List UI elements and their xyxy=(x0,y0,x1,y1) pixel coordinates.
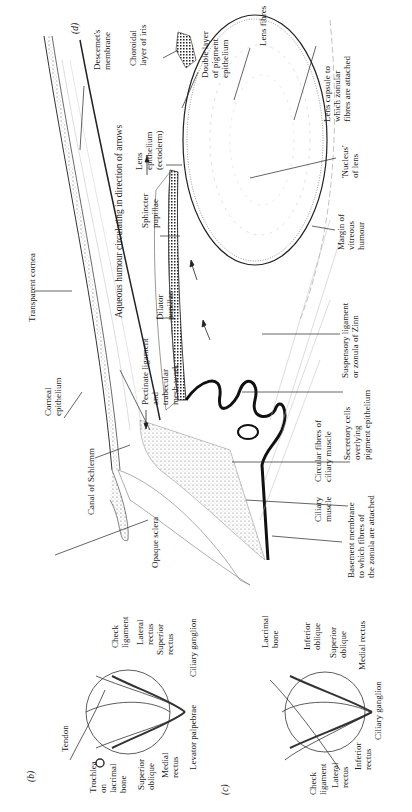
label-superior-oblique-c: Superior oblique xyxy=(328,627,348,658)
label-aqueous-humour: Aqueous humour circulating in direction … xyxy=(114,125,125,318)
label-pectinate-ligament: Pectinate ligament and trabecular mesh-w… xyxy=(140,338,180,405)
label-nucleus-of-lens: 'Nucleus' of lens xyxy=(340,145,360,178)
panel-c-label: (c) xyxy=(220,784,231,795)
label-ciliary-muscle: Ciliary muscle xyxy=(313,497,333,523)
choroidal-fragment xyxy=(176,32,196,68)
label-double-layer-pigment: Double layer of pigment epithelium xyxy=(200,31,230,78)
label-lens-fibres: Lens fibres xyxy=(258,6,268,46)
label-ciliary-ganglion-b: Ciliary ganglion xyxy=(188,618,198,677)
label-inferior-oblique: Inferior oblique xyxy=(302,623,322,650)
label-tendon: Tendon xyxy=(60,725,70,752)
label-trochlea: Trochlea on lacrimal bone xyxy=(88,761,128,793)
label-circular-fibres: Circular fibres of ciliary muscle xyxy=(313,420,333,482)
label-lens-capsule: Lens capsule to which zonular fibres are… xyxy=(322,56,352,122)
label-margin-vitreous: Margin of vitreous humour xyxy=(336,214,366,250)
label-canal-of-schlemm: Canal of Schlemm xyxy=(86,448,96,515)
label-lacrimal-bone: Lacrimal bone xyxy=(260,616,280,648)
label-descemets-membrane: Descemet's membrane xyxy=(92,29,112,70)
label-opaque-sclera: Opaque sclera xyxy=(150,517,160,568)
panel-d-label: (d) xyxy=(70,23,81,34)
label-check-ligament-b: Check ligament xyxy=(110,617,130,649)
label-corneal-epithelium: Corneal epithelium xyxy=(43,378,63,417)
panel-b-label: (b) xyxy=(26,771,37,782)
label-medial-rectus-b: Medial rectus xyxy=(160,753,180,779)
conjunctiva-fold xyxy=(110,470,128,541)
label-superior-rectus-b: Superior rectus xyxy=(155,624,175,655)
label-dilator-pupillae: Dilator pupillae xyxy=(155,291,175,320)
label-sphincter-pupillae: Sphincter pupillae xyxy=(140,194,160,229)
label-ciliary-ganglion-c: Ciliary ganglion xyxy=(373,681,383,740)
label-levator-palpebrae: Levator palpebrae xyxy=(188,705,198,770)
label-superior-oblique-b: Superior oblique xyxy=(136,759,156,790)
label-check-ligament-c: Check ligament xyxy=(308,764,328,796)
label-suspensory-ligament: Suspensory ligament or zonula of Zinn xyxy=(340,303,360,378)
label-medial-rectus-c: Medial rectus xyxy=(357,621,367,670)
label-transparent-cornea: Transparent cornea xyxy=(27,253,37,322)
label-secretory-cells: Secretory cells overlying pigment epithe… xyxy=(342,390,372,460)
label-inferior-rectus: Inferior rectus xyxy=(353,743,373,770)
label-lateral-rectus-c: Lateral rectus xyxy=(330,763,350,788)
label-lateral-rectus-b: Lateral rectus xyxy=(135,620,155,645)
label-choroidal-layer: Choroidal layer of iris xyxy=(128,25,148,66)
label-basement-membrane: Basement membrane to which fibres of the… xyxy=(346,495,376,578)
eye-anatomy-figure: (d) Descemet's membrane Aqueous humour c… xyxy=(0,0,412,812)
label-lens-epithelium: Lens epithelium (ectoderm) xyxy=(134,131,164,170)
